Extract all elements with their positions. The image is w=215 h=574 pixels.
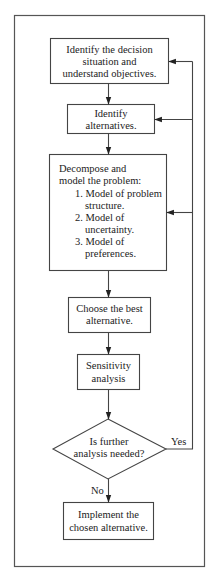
node-text-line: 3. Model of (75, 236, 125, 247)
decision-analysis-flowchart: Identify the decision situation and unde… (0, 0, 215, 574)
node-text-line: analysis needed? (74, 448, 145, 459)
node-text-line: model the problem: (59, 175, 141, 186)
node-identify-situation: Identify the decision situation and unde… (51, 39, 169, 84)
node-text-line: 2. Model of (75, 212, 125, 223)
node-text-line: Identify (94, 108, 128, 119)
node-text-line: Choose the best (76, 303, 143, 314)
node-text-line: Sensitivity (86, 360, 132, 371)
node-text-line: situation and (83, 56, 138, 67)
node-text-line: alternatives. (85, 120, 136, 131)
node-text-line: Implement the (78, 509, 139, 520)
node-text-line: alternative. (86, 315, 133, 326)
node-choose-best: Choose the best alternative. (69, 298, 151, 333)
node-text-line: analysis (92, 373, 126, 384)
node-further-analysis: Is further analysis needed? (53, 419, 166, 479)
node-text-line: preferences. (85, 248, 136, 259)
node-text-line: 1. Model of problem (75, 188, 162, 199)
node-text-line: understand objectives. (63, 68, 157, 79)
no-label: No (91, 485, 104, 496)
outer-frame (15, 16, 205, 567)
node-decompose-model: Decompose and model the problem: 1. Mode… (50, 155, 167, 271)
node-text-line: Is further (90, 436, 129, 447)
node-implement: Implement the chosen alternative. (64, 503, 154, 540)
node-text-line: Decompose and (59, 163, 127, 174)
node-identify-alternatives: Identify alternatives. (68, 105, 155, 134)
node-text-line: chosen alternative. (69, 522, 148, 533)
node-text-line: Identify the decision (66, 44, 153, 55)
node-text-line: structure. (85, 200, 124, 211)
yes-label: Yes (171, 436, 186, 447)
node-sensitivity-analysis: Sensitivity analysis (78, 355, 140, 390)
node-text-line: uncertainty. (85, 224, 134, 235)
